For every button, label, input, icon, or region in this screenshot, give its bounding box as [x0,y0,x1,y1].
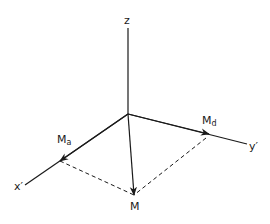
dashed-line-ma-to-m [60,161,134,195]
md-vector-arrow [128,114,209,134]
ma-label: Ma [57,133,72,147]
x-axis-label: x′ [14,180,24,193]
m-label: M [130,200,140,213]
md-label: Md [202,114,217,128]
vector-diagram: z x′ y′ Ma Md M [0,0,270,224]
z-axis-label: z [124,14,130,27]
dashed-line-md-to-m [134,138,206,195]
y-axis-label: y′ [249,140,259,153]
m-vector-arrow [128,114,134,195]
